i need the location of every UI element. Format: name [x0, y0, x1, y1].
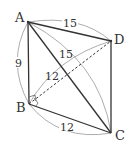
length-label-BC: 12 — [60, 121, 74, 134]
vertex-label-B: B — [16, 100, 26, 115]
length-label-AD: 15 — [63, 17, 77, 30]
vertex-label-C: C — [115, 128, 125, 143]
length-label-AB: 9 — [15, 57, 22, 70]
vertex-label-A: A — [14, 10, 25, 25]
length-label-AC: 15 — [59, 48, 73, 61]
vertex-A — [27, 21, 29, 23]
edge-AB — [28, 22, 29, 104]
vertex-label-D: D — [114, 32, 124, 47]
vertex-D — [110, 40, 112, 42]
diagram-canvas: A B C D 15 15 9 12 12 — [0, 0, 132, 149]
tetrahedron-diagram: A B C D 15 15 9 12 12 — [0, 0, 132, 149]
length-label-BD: 12 — [45, 70, 59, 83]
